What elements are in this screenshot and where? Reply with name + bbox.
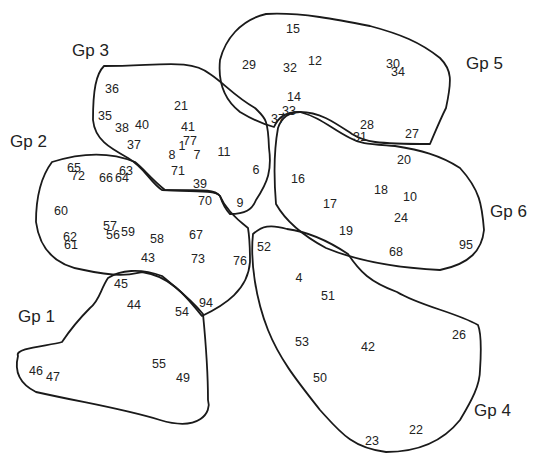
member-label: 61 xyxy=(64,239,78,252)
member-label: 44 xyxy=(127,299,141,312)
member-label: 20 xyxy=(397,154,411,167)
member-label: 4 xyxy=(296,272,303,285)
member-label: 21 xyxy=(174,100,188,113)
member-label: 43 xyxy=(141,252,155,265)
group-label-gp6: Gp 6 xyxy=(490,203,527,220)
member-label: 18 xyxy=(374,184,388,197)
member-label: 38 xyxy=(115,122,129,135)
member-label: 66 xyxy=(99,172,113,185)
member-label: 46 xyxy=(29,365,43,378)
member-label: 14 xyxy=(287,91,301,104)
member-label: 50 xyxy=(313,372,327,385)
member-label: 7 xyxy=(194,149,201,162)
group-label-gp5: Gp 5 xyxy=(466,55,503,72)
member-label: 23 xyxy=(365,435,379,448)
member-label: 19 xyxy=(339,225,353,238)
cluster-diagram: Gp 145445455464749Gp 2657266636460575659… xyxy=(0,0,535,457)
member-label: 64 xyxy=(115,172,129,185)
member-label: 39 xyxy=(193,178,207,191)
member-label: 22 xyxy=(409,424,423,437)
member-label: 42 xyxy=(361,341,375,354)
group-label-gp3: Gp 3 xyxy=(72,42,109,59)
member-label: 36 xyxy=(105,83,119,96)
member-label: 95 xyxy=(459,239,473,252)
member-label: 55 xyxy=(152,358,166,371)
member-label: 56 xyxy=(106,229,120,242)
member-label: 47 xyxy=(46,371,60,384)
member-label: 31 xyxy=(353,131,367,144)
member-label: 26 xyxy=(452,329,466,342)
member-label: 8 xyxy=(169,149,176,162)
member-label: 60 xyxy=(54,205,68,218)
member-label: 15 xyxy=(286,23,300,36)
group-label-gp4: Gp 4 xyxy=(474,402,511,419)
member-label: 17 xyxy=(323,198,337,211)
member-label: 9 xyxy=(237,197,244,210)
member-label: 59 xyxy=(121,226,135,239)
member-label: 68 xyxy=(389,246,403,259)
member-label: 76 xyxy=(233,255,247,268)
member-label: 11 xyxy=(218,146,231,159)
group-label-gp2: Gp 2 xyxy=(10,133,47,150)
member-label: 32 xyxy=(283,62,297,75)
group-outlines xyxy=(0,0,535,457)
group-label-gp1: Gp 1 xyxy=(18,308,55,325)
member-label: 71 xyxy=(171,165,185,178)
member-label: 49 xyxy=(176,372,190,385)
member-label: 37 xyxy=(271,113,285,126)
member-label: 24 xyxy=(394,212,408,225)
member-label: 53 xyxy=(295,336,309,349)
member-label: 1 xyxy=(179,140,186,153)
group-outline-gp1 xyxy=(17,271,209,424)
member-label: 51 xyxy=(321,290,335,303)
member-label: 58 xyxy=(150,233,164,246)
member-label: 37 xyxy=(127,139,141,152)
member-label: 10 xyxy=(403,191,417,204)
member-label: 6 xyxy=(253,164,260,177)
member-label: 35 xyxy=(98,110,112,123)
member-label: 34 xyxy=(391,66,405,79)
member-label: 72 xyxy=(71,170,85,183)
member-label: 29 xyxy=(242,59,256,72)
group-outline-gp5 xyxy=(220,14,450,144)
member-label: 16 xyxy=(291,173,305,186)
member-label: 70 xyxy=(198,195,212,208)
member-label: 27 xyxy=(405,128,419,141)
member-label: 12 xyxy=(308,55,322,68)
member-label: 45 xyxy=(114,278,128,291)
member-label: 52 xyxy=(257,241,271,254)
member-label: 54 xyxy=(175,306,189,319)
member-label: 73 xyxy=(191,253,205,266)
member-label: 40 xyxy=(135,119,149,132)
member-label: 67 xyxy=(189,229,203,242)
member-label: 41 xyxy=(181,121,195,134)
member-label: 94 xyxy=(199,297,213,310)
